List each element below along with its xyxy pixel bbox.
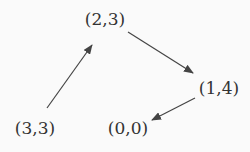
edge-1-4-to-0-0 <box>152 98 195 120</box>
node-3-3: (3,3) <box>15 118 55 138</box>
node-0-0: (0,0) <box>108 118 148 138</box>
edge-2-3-to-1-4 <box>128 32 193 73</box>
state-transition-diagram: (3,3) (2,3) (1,4) (0,0) <box>0 0 250 152</box>
node-2-3: (2,3) <box>85 9 125 29</box>
node-1-4: (1,4) <box>199 78 239 98</box>
edge-3-3-to-2-3 <box>47 45 92 108</box>
